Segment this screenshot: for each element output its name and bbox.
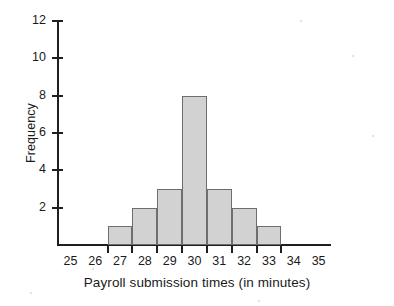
histogram-bar [182,96,207,245]
x-axis-tick [256,245,258,253]
y-axis-tick-label-wrap: 2 [22,201,46,213]
y-axis-tick [52,57,63,59]
histogram-bar [157,189,182,245]
x-axis-tick-label: 27 [108,254,132,268]
histogram-bar [232,208,257,245]
x-axis-tick-label: 35 [307,254,331,268]
y-axis-tick-label: 4 [26,163,46,175]
y-axis-tick [52,20,63,22]
x-axis-tick [280,245,282,253]
y-axis-tick-label: 2 [26,201,46,213]
y-axis-tick-label: 8 [26,89,46,101]
x-axis-tick-label: 34 [282,254,306,268]
histogram-bar [108,226,133,245]
y-axis-tick-label-wrap: 12 [22,14,46,26]
x-axis-tick [206,245,208,253]
y-axis-tick [52,132,63,134]
y-axis-tick [52,207,63,209]
x-axis-tick-label: 28 [133,254,157,268]
y-axis-tick-label-wrap: 6 [22,126,46,138]
scan-artifact [300,20,302,22]
x-axis-tick-label: 26 [83,254,107,268]
y-axis-tick-label: 12 [26,14,46,26]
x-axis-tick [107,245,109,253]
x-axis-tick-label: 25 [58,254,82,268]
scan-artifact [352,55,354,57]
x-axis-tick-label: 33 [257,254,281,268]
x-axis-tick [131,245,133,253]
histogram-bar [207,189,232,245]
x-axis-tick [156,245,158,253]
scan-artifact [30,292,32,294]
x-axis-tick-label: 31 [207,254,231,268]
x-axis-title: Payroll submission times (in minutes) [0,274,394,292]
y-axis-tick-label-wrap: 8 [22,89,46,101]
x-axis-tick-label: 29 [158,254,182,268]
x-axis-tick-label: 30 [183,254,207,268]
x-axis-tick [231,245,233,253]
x-axis-tick [181,245,183,253]
histogram-bar [132,208,157,245]
scan-artifact [92,268,94,270]
y-axis-tick-label: 10 [26,51,46,63]
scan-artifact [372,135,374,137]
y-axis-tick-label: 6 [26,126,46,138]
scan-artifact [258,300,260,302]
y-axis-tick-label-wrap: 10 [22,51,46,63]
x-axis-tick-label: 32 [232,254,256,268]
y-axis-tick [52,169,63,171]
histogram-bar [257,226,282,245]
y-axis-tick-label-wrap: 4 [22,163,46,175]
y-axis-tick [52,95,63,97]
histogram-figure: Frequency 246810122526272829303132333435… [0,0,394,306]
